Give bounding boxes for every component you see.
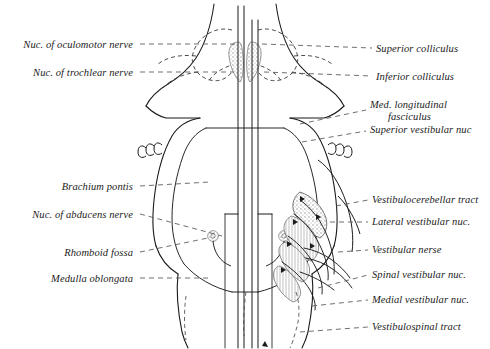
label-rhomboid-fossa: Rhomboid fossa [0, 247, 133, 259]
label-brachium-pontis: Brachium pontis [0, 181, 133, 193]
label-vestibular-nerve: Vestibular nerse [372, 244, 442, 256]
figure-root: Nuc. of oculomotor nerveNuc. of trochlea… [0, 0, 490, 349]
abducens-nuclei [208, 231, 290, 266]
dashed-internal-outlines [185, 292, 300, 348]
label-nuc-trochlear-nerve: Nuc. of trochlear nerve [0, 67, 133, 79]
colliculi-dashed-outlines [158, 29, 332, 88]
label-nuc-abducens-nerve: Nuc. of abducens nerve [0, 209, 133, 221]
cerebellar-peduncle-right [318, 160, 360, 252]
label-medulla-oblongata: Medulla oblongata [0, 273, 133, 285]
colliculi-group [146, 4, 344, 106]
label-med-longitudinal-fasciculus-line2: fasciculus [370, 111, 447, 123]
label-med-longitudinal-fasciculus: Med. longitudinalfasciculus [370, 99, 447, 123]
label-inferior-colliculus: Inferior colliculus [376, 71, 454, 83]
label-lateral-vestibular-nuc: Lateral vestibular nuc. [372, 216, 470, 228]
label-nuc-oculomotor-nerve: Nuc. of oculomotor nerve [0, 39, 133, 51]
label-superior-colliculus: Superior colliculus [376, 43, 458, 55]
vestibular-nuclei-complex [273, 192, 326, 302]
midbrain-nuclei-stipple [229, 42, 261, 82]
label-medial-vestibular-nuc: Medial vestibular nuc. [372, 294, 469, 306]
label-vestibulocerebellar-tract: Vestibulocerebellar tract [372, 194, 478, 206]
label-spinal-vestibular-nuc: Spinal vestibular nuc. [372, 269, 466, 281]
label-vestibulospinal-tract: Vestibulospinal tract [372, 321, 461, 333]
brachium-pontis-left-hooks [138, 143, 162, 157]
label-superior-vestibular-nuc: Superior vestibular nuc [370, 124, 471, 136]
brachium-pontis-right-hooks [328, 143, 352, 157]
